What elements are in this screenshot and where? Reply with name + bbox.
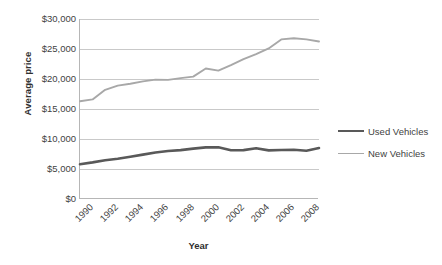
y-tick-label: $10,000 <box>16 134 76 144</box>
y-tick-label: $20,000 <box>16 74 76 84</box>
legend-item[interactable]: New Vehicles <box>338 142 428 164</box>
plot-area <box>79 19 318 199</box>
legend-label: Used Vehicles <box>368 126 428 137</box>
legend-label: New Vehicles <box>368 148 425 159</box>
y-tick-label: $25,000 <box>16 44 76 54</box>
legend-item[interactable]: Used Vehicles <box>338 120 428 142</box>
x-tick-label: 1998 <box>165 202 196 233</box>
chart-container: Average price $0$5,000$10,000$15,000$20,… <box>0 0 442 265</box>
x-tick-label: 1996 <box>139 202 170 233</box>
chart-legend: Used VehiclesNew Vehicles <box>338 120 428 164</box>
y-tick-label: $5,000 <box>16 164 76 174</box>
legend-swatch-icon <box>338 130 364 132</box>
data-series-layer <box>80 19 319 199</box>
series-line <box>80 147 319 164</box>
x-axis-title: Year <box>79 240 318 251</box>
y-tick-label: $0 <box>16 194 76 204</box>
series-line <box>80 38 319 101</box>
x-tick-label: 2008 <box>290 202 321 233</box>
legend-swatch-icon <box>338 153 364 154</box>
y-tick-label: $30,000 <box>16 14 76 24</box>
y-tick-label: $15,000 <box>16 104 76 114</box>
